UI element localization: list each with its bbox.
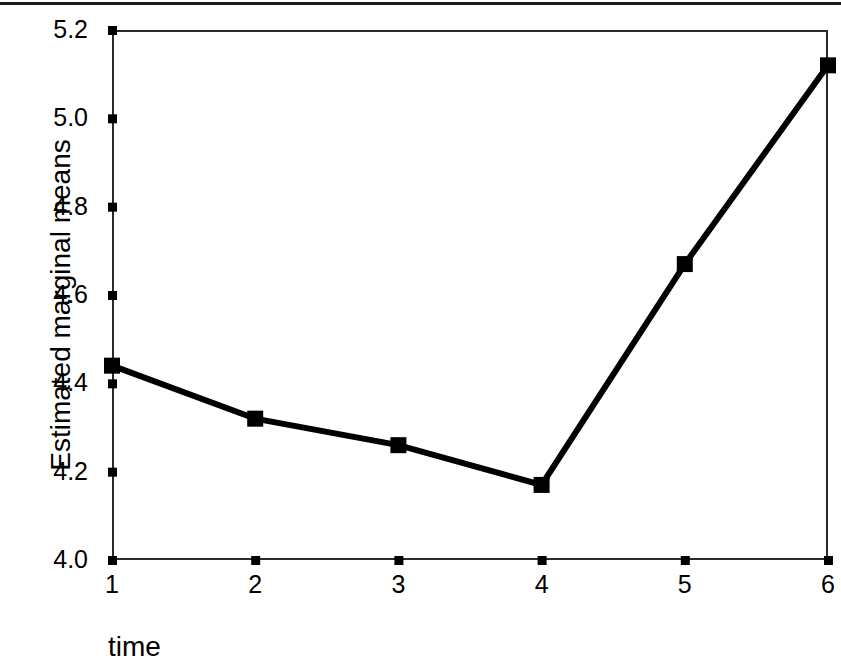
y-axis-title-wrapper: Estimated marginal means: [0, 0, 40, 672]
x-axis-tick-label: 3: [391, 572, 405, 597]
x-axis-tick-label: 6: [821, 572, 835, 597]
x-axis-tick-label: 5: [678, 572, 692, 597]
x-axis-tick-label-group: 123456: [0, 0, 841, 672]
x-axis-tick-label: 4: [535, 572, 549, 597]
x-axis-title: time: [108, 632, 161, 662]
profile-plot-figure: 4.04.24.44.64.85.05.2 123456 Estimated m…: [0, 0, 841, 672]
x-axis-tick-label: 2: [248, 572, 262, 597]
x-axis-tick-label: 1: [105, 572, 119, 597]
y-axis-title: Estimated marginal means: [46, 40, 76, 570]
